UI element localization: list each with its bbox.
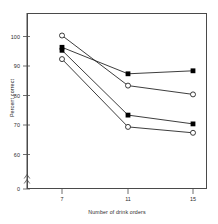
x-axis-ticks xyxy=(62,189,193,194)
x-tick-label-7: 7 xyxy=(54,196,70,202)
y-tick-label-60: 60 xyxy=(6,152,20,158)
x-tick-label-11: 11 xyxy=(120,196,136,202)
x-tick-label-15: 15 xyxy=(185,196,201,202)
chart-container: 100 90 80 70 60 0 7 11 15 Number of drin… xyxy=(0,0,218,224)
y-axis-title: Percent correct xyxy=(9,58,15,138)
x-axis-title: Number of drink orders xyxy=(27,209,207,215)
y-tick-label-0: 0 xyxy=(6,186,20,192)
plot-frame xyxy=(27,13,207,189)
y-tick-label-100: 100 xyxy=(6,34,20,40)
